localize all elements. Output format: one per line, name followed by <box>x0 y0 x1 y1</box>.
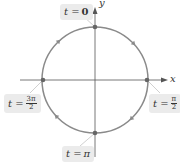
label-prefix: t = <box>64 6 80 18</box>
point-bottom <box>93 131 98 136</box>
label-t-pi-over-2: t = π 2 <box>149 94 180 113</box>
fraction-denominator: 2 <box>172 104 176 111</box>
point-top <box>93 25 98 30</box>
fraction: 3π 2 <box>26 96 37 111</box>
y-axis-label: y <box>99 0 105 8</box>
label-t-pi: t = π <box>62 146 94 162</box>
x-axis-arrow-icon <box>161 78 168 83</box>
point-left <box>41 78 46 83</box>
point-right <box>145 78 150 83</box>
label-value: π <box>84 148 91 160</box>
label-prefix: t = <box>153 98 169 110</box>
label-t-3pi-over-2: t = 3π 2 <box>4 94 41 113</box>
label-prefix: t = <box>8 98 24 110</box>
label-value: 0 <box>82 6 89 18</box>
label-t-0: t = 0 <box>60 4 93 20</box>
fraction-denominator: 2 <box>29 104 33 111</box>
label-prefix: t = <box>66 148 82 160</box>
unit-circle-diagram <box>0 0 180 163</box>
fraction: π 2 <box>171 96 178 111</box>
x-axis-label: x <box>170 73 176 84</box>
y-axis-arrow-icon <box>93 7 98 14</box>
